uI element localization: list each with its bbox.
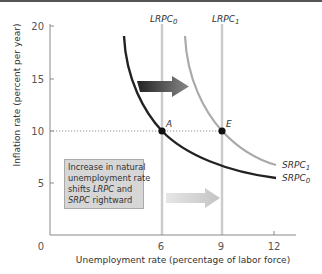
lrpc0-label: LRPC0 — [150, 14, 178, 26]
y-axis-title: Inflation rate (percent per year) — [12, 23, 22, 166]
note-line-2: unemployment rate — [68, 173, 141, 184]
phillips-curve-chart: 20 15 10 5 0 6 9 12 Unemployment rate (p… — [0, 0, 322, 274]
x-axis-title: Unemployment rate (percentage of labor f… — [76, 255, 290, 265]
annotation-box: Increase in natural unemployment rate sh… — [64, 159, 144, 209]
y-tick-label-10: 10 — [31, 126, 44, 137]
light-shift-arrow — [166, 188, 220, 208]
point-e — [218, 127, 225, 134]
point-a-label: A — [165, 119, 172, 129]
srpc1-curve — [185, 36, 276, 165]
x-tick-label-12: 12 — [268, 241, 281, 252]
point-e-label: E — [226, 119, 232, 129]
y-tick-label-5: 5 — [38, 178, 44, 189]
origin-label: 0 — [38, 241, 44, 252]
note-line-4: SRPC rightward — [68, 195, 141, 206]
x-tick-label-6: 6 — [158, 241, 164, 252]
y-tick-label-15: 15 — [31, 74, 44, 85]
srpc0-label: SRPC0 — [282, 173, 311, 185]
point-a — [158, 127, 165, 134]
x-tick-label-9: 9 — [218, 241, 224, 252]
lrpc1-label: LRPC1 — [212, 14, 239, 26]
note-line-1: Increase in natural — [68, 162, 141, 173]
y-tick-label-20: 20 — [31, 21, 44, 32]
srpc1-label: SRPC1 — [282, 160, 310, 172]
note-line-3: shifts LRPC and — [68, 184, 141, 195]
